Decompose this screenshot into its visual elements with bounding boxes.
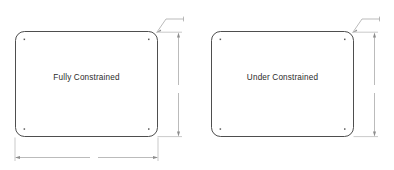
plate-label-fully-constrained: Fully Constrained [53, 73, 120, 82]
vdim-arrow-top-left [177, 32, 180, 37]
plate-label-under-constrained: Under Constrained [247, 73, 319, 82]
corner-point-top-left [24, 39, 26, 41]
panel-under-constrained[interactable]: Under Constrained [212, 17, 380, 137]
plate-outline-left[interactable] [16, 32, 158, 137]
corner-point-top-left-right-panel [220, 39, 222, 41]
corner-point-bottom-left-right-panel [220, 128, 222, 130]
plate-outline-right[interactable] [212, 32, 354, 137]
hdim-arrow-left [15, 156, 20, 159]
vdim-arrow-bottom-left [177, 132, 180, 137]
corner-point-top-right [148, 39, 150, 41]
hdim-arrow-right [153, 156, 158, 159]
vdim-arrow-bottom-right [373, 132, 376, 137]
leader-callout-right[interactable] [353, 17, 380, 33]
panel-fully-constrained[interactable]: Fully Constrained [15, 17, 184, 161]
corner-point-bottom-right-right-panel [344, 128, 346, 130]
corner-point-bottom-right [148, 128, 150, 130]
leader-callout-left[interactable] [157, 17, 184, 33]
vdim-arrow-top-right [373, 32, 376, 37]
vertical-dimension-right[interactable] [373, 32, 376, 136]
corner-point-top-right-right-panel [344, 39, 346, 41]
technical-drawing: Fully Constrained [0, 0, 394, 170]
corner-point-bottom-left [24, 128, 26, 130]
drawing-canvas: Fully Constrained [0, 0, 394, 170]
vertical-dimension-left[interactable] [177, 32, 180, 136]
horizontal-dimension-left[interactable] [15, 156, 158, 159]
